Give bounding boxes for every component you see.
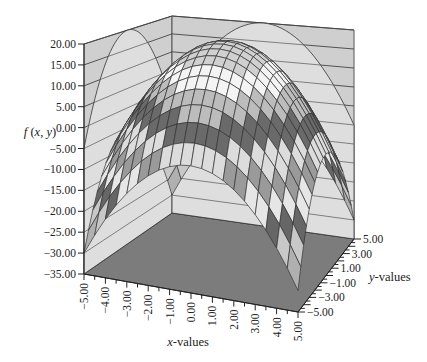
surface-chart: 20.0015.0010.005.000.00−5.00−10.00−15.00… bbox=[0, 0, 427, 362]
y-tick-label: −5.00 bbox=[307, 306, 334, 318]
x-axis-title: x-values bbox=[166, 335, 209, 349]
z-tick-label: 20.00 bbox=[50, 38, 76, 50]
z-tick-label: −5.00 bbox=[49, 143, 76, 155]
x-tick-label: −1.00 bbox=[164, 298, 176, 325]
z-tick-label: −20.00 bbox=[44, 205, 77, 217]
x-tick-label: −3.00 bbox=[121, 290, 133, 317]
z-tick-label: 0.00 bbox=[56, 122, 76, 134]
x-tick-label: −5.00 bbox=[78, 283, 90, 310]
y-tick-label: 3.00 bbox=[352, 248, 372, 260]
z-tick-label: −10.00 bbox=[44, 163, 77, 175]
x-tick-label: 3.00 bbox=[249, 313, 261, 333]
z-tick-label: 10.00 bbox=[50, 80, 76, 92]
x-tick-label: 1.00 bbox=[206, 306, 218, 326]
z-tick-label: −30.00 bbox=[44, 247, 77, 259]
y-tick-label: −1.00 bbox=[329, 277, 356, 289]
x-tick-label: 2.00 bbox=[228, 309, 240, 329]
z-tick-label: −35.00 bbox=[44, 268, 77, 280]
z-axis-title: f (x, y) bbox=[24, 125, 56, 139]
z-tick-label: −15.00 bbox=[44, 184, 77, 196]
y-tick-label: 1.00 bbox=[341, 262, 361, 274]
x-tick-label: 0.00 bbox=[185, 302, 197, 322]
x-tick-label: −4.00 bbox=[99, 287, 111, 314]
z-tick-label: −25.00 bbox=[44, 226, 77, 238]
y-tick-label: 5.00 bbox=[363, 233, 383, 245]
x-tick-label: 5.00 bbox=[292, 321, 304, 341]
z-tick-label: 5.00 bbox=[56, 101, 76, 113]
z-tick-label: 15.00 bbox=[50, 59, 76, 71]
x-tick-label: 4.00 bbox=[271, 317, 283, 337]
x-tick-label: −2.00 bbox=[142, 294, 154, 321]
y-tick-label: −3.00 bbox=[318, 291, 345, 303]
y-axis-title: y-values bbox=[367, 270, 411, 284]
